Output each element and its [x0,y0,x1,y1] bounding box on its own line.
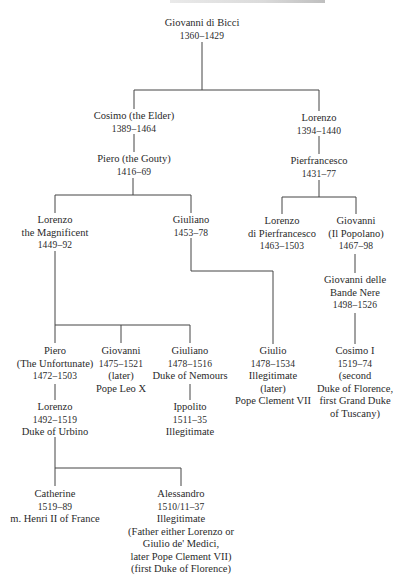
person-dates: 1467–98 [328,240,384,253]
person-name: the Magnificent [22,227,89,240]
person-dates: 1478–1516 [152,358,227,371]
person-catherine: Catherine1519–89m. Henri II of France [10,488,100,526]
person-pierfrancesco: Pierfrancesco1431–77 [290,155,347,180]
person-giuliano-nemours: Giuliano1478–1516Duke of Nemours [152,345,227,383]
person-dates: 1510/11–37 [128,501,234,514]
person-lorenzo-urbino: Lorenzo1492–1519Duke of Urbino [22,401,89,439]
person-name: Ippolito [166,401,214,414]
person-note: (second [317,370,393,383]
person-alessandro: Alessandro1510/11–37Illegitimate(Father … [128,488,234,576]
person-giovanni-leo-x: Giovanni1475–1521(later)Pope Leo X [96,345,146,395]
person-giovanni-bande-nere: Giovanni delleBande Nere1498–1526 [324,274,386,312]
person-dates: 1475–1521 [96,358,146,371]
person-name: Lorenzo [22,214,89,227]
person-name: Cosimo I [317,345,393,358]
person-note: (first Duke of Florence) [128,563,234,576]
person-note: Duke of Florence, [317,383,393,396]
person-dates: 1519–89 [10,501,100,514]
person-name: Alessandro [128,488,234,501]
person-dates: 1463–1503 [248,240,316,253]
person-name: Piero (the Gouty) [97,153,171,166]
person-dates: 1519–74 [317,358,393,371]
person-note: Duke of Urbino [22,426,89,439]
person-note: Pope Leo X [96,383,146,396]
person-giuliano-1453: Giuliano1453–78 [173,214,210,239]
person-giulio: Giulio1478–1534Illegitimate(later)Pope C… [235,345,311,408]
person-note: m. Henri II of France [10,513,100,526]
person-name: Piero [17,345,94,358]
person-dates: 1394–1440 [297,125,342,138]
person-name: Cosimo (the Elder) [94,110,174,123]
person-name: (Il Popolano) [328,228,384,241]
person-giovanni-popolano: Giovanni(Il Popolano)1467–98 [328,215,384,253]
person-name: di Pierfrancesco [248,228,316,241]
person-name: Lorenzo [248,215,316,228]
person-dates: 1389–1464 [94,123,174,136]
person-note: Pope Clement VII [235,395,311,408]
person-giovanni-di-bicci: Giovanni di Bicci1360–1429 [165,17,240,42]
person-note: first Grand Duke [317,395,393,408]
person-name: Giovanni [96,345,146,358]
person-note: Duke of Nemours [152,370,227,383]
person-dates: 1360–1429 [165,30,240,43]
person-note: of Tuscany) [317,408,393,421]
person-dates: 1498–1526 [324,299,386,312]
person-dates: 1478–1534 [235,358,311,371]
person-lorenzo-magnificent: Lorenzothe Magnificent1449–92 [22,214,89,252]
person-name: (The Unfortunate) [17,358,94,371]
person-dates: 1472–1503 [17,370,94,383]
person-cosimo-i: Cosimo I1519–74(secondDuke of Florence,f… [317,345,393,420]
person-name: Catherine [10,488,100,501]
person-cosimo-elder: Cosimo (the Elder)1389–1464 [94,110,174,135]
person-name: Giovanni [328,215,384,228]
person-dates: 1511–35 [166,414,214,427]
person-note: later Pope Clement VII) [128,551,234,564]
person-name: Giovanni di Bicci [165,17,240,30]
person-dates: 1416–69 [97,166,171,179]
person-note: Illegitimate [166,426,214,439]
person-note: Illegitimate [128,513,234,526]
person-note: Giulio de' Medici, [128,538,234,551]
person-name: Lorenzo [22,401,89,414]
person-name: Lorenzo [297,112,342,125]
person-piero-unfortunate: Piero(The Unfortunate)1472–1503 [17,345,94,383]
person-note: Illegitimate [235,370,311,383]
person-name: Giulio [235,345,311,358]
person-name: Giuliano [152,345,227,358]
person-dates: 1449–92 [22,239,89,252]
person-name: Pierfrancesco [290,155,347,168]
person-dates: 1492–1519 [22,414,89,427]
person-dates: 1453–78 [173,227,210,240]
person-dates: 1431–77 [290,168,347,181]
person-note: (later) [235,383,311,396]
person-piero-gouty: Piero (the Gouty)1416–69 [97,153,171,178]
person-ippolito: Ippolito1511–35Illegitimate [166,401,214,439]
person-note: (later) [96,370,146,383]
person-lorenzo-di-pierfrancesco: Lorenzodi Pierfrancesco1463–1503 [248,215,316,253]
person-name: Giovanni delle [324,274,386,287]
person-note: (Father either Lorenzo or [128,526,234,539]
person-name: Bande Nere [324,287,386,300]
person-lorenzo-1394: Lorenzo1394–1440 [297,112,342,137]
person-name: Giuliano [173,214,210,227]
